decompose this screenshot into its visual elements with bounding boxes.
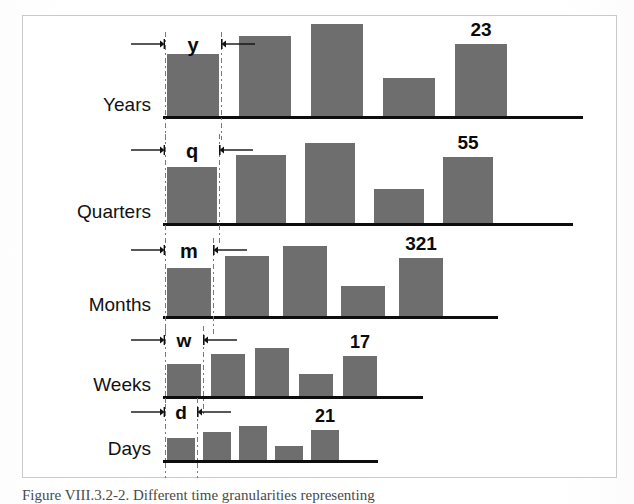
bar-value-label: 23 xyxy=(443,19,519,41)
arrow-right-tick-icon xyxy=(131,144,165,155)
bar xyxy=(455,44,507,116)
bar-value-label: 21 xyxy=(299,406,351,427)
bar xyxy=(239,426,267,460)
bar-value-label: 55 xyxy=(431,132,505,154)
row-baseline xyxy=(163,116,583,119)
bar xyxy=(167,167,217,223)
bar xyxy=(275,446,303,460)
bar xyxy=(305,143,355,223)
bar xyxy=(443,157,493,223)
bar xyxy=(167,268,211,316)
arrow-left-tick-icon xyxy=(221,38,255,49)
arrow-left-tick-icon xyxy=(203,334,237,345)
row-baseline xyxy=(163,396,423,399)
row-label-weeks: Weeks xyxy=(23,374,151,396)
bar xyxy=(167,438,195,460)
arrow-left-tick-icon xyxy=(219,144,253,155)
figure-frame: Years23yQuarters55qMonths321mWeeks17wDay… xyxy=(22,15,617,478)
row-label-days: Days xyxy=(23,438,151,460)
row-label-quarters: Quarters xyxy=(23,201,151,223)
bar-value-label: 321 xyxy=(387,233,455,255)
arrow-left-tick-icon xyxy=(197,406,231,417)
bar xyxy=(311,430,339,460)
bar xyxy=(236,155,286,223)
bar xyxy=(311,24,363,116)
bar xyxy=(167,364,201,396)
arrow-right-tick-icon xyxy=(131,334,165,345)
arrow-left-tick-icon xyxy=(213,244,247,255)
bar xyxy=(374,189,424,223)
figure-caption: Figure VIII.3.2-2. Different time granul… xyxy=(22,487,622,504)
bar xyxy=(341,286,385,316)
bar xyxy=(399,258,443,316)
row-baseline xyxy=(163,460,378,463)
bar xyxy=(299,374,333,396)
bar xyxy=(203,432,231,460)
row-baseline xyxy=(163,223,573,226)
row-label-months: Months xyxy=(23,294,151,316)
bar xyxy=(255,348,289,396)
bar xyxy=(383,78,435,116)
arrow-right-tick-icon xyxy=(131,406,165,417)
bar-value-label: 17 xyxy=(331,332,389,353)
bar xyxy=(343,356,377,396)
arrow-right-tick-icon xyxy=(131,244,165,255)
bar xyxy=(167,54,219,116)
bar xyxy=(211,354,245,396)
arrow-right-tick-icon xyxy=(131,38,165,49)
row-label-years: Years xyxy=(23,94,151,116)
bar xyxy=(283,246,327,316)
bar xyxy=(225,256,269,316)
